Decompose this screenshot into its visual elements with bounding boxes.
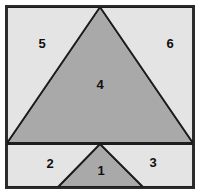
figure-canvas: 456123 (0, 0, 200, 194)
region-label-6: 6 (166, 36, 173, 51)
region-label-5: 5 (38, 36, 45, 51)
region-label-2: 2 (46, 156, 53, 171)
regions-layer (7, 7, 193, 187)
region-label-4: 4 (96, 77, 104, 92)
region-label-1: 1 (97, 163, 104, 178)
region-label-3: 3 (149, 155, 156, 170)
geometric-figure: 456123 (0, 0, 200, 194)
